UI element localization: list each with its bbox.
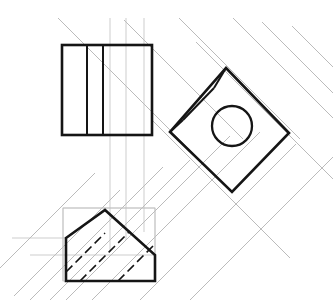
- diagonal-line: [140, 144, 296, 300]
- front-view-hidden-line: [118, 244, 155, 281]
- construction-lines-group: [0, 18, 333, 300]
- diamond-outline: [170, 68, 289, 192]
- top-view-outline: [62, 45, 152, 135]
- orthographic-projection-drawing: [0, 0, 333, 300]
- diamond-inner-offset-connector: [170, 120, 183, 132]
- diamond-center-circle: [212, 106, 252, 146]
- diagonal-construction-lines-mirror: [58, 18, 333, 258]
- diamond-inner-offset-edge: [183, 88, 214, 120]
- diagonal-line: [0, 173, 95, 268]
- diagonal-line: [92, 132, 260, 300]
- diagonal-line: [66, 136, 230, 300]
- front-view-hidden-line: [80, 231, 130, 281]
- front-view-bounding-box: [63, 208, 155, 281]
- diagonal-line: [233, 18, 333, 118]
- diagonal-line: [152, 120, 290, 258]
- technical-drawing-canvas: [0, 0, 333, 300]
- diagonal-line: [292, 26, 333, 67]
- diagonal-line: [179, 18, 300, 139]
- top-view-rectangle: [62, 45, 152, 135]
- diagonal-line: [124, 20, 243, 139]
- diagonal-construction-lines: [0, 132, 333, 300]
- front-view-hidden-line: [66, 233, 105, 272]
- horizontal-projector-lines: [12, 208, 155, 255]
- auxiliary-diamond-view: [170, 68, 289, 192]
